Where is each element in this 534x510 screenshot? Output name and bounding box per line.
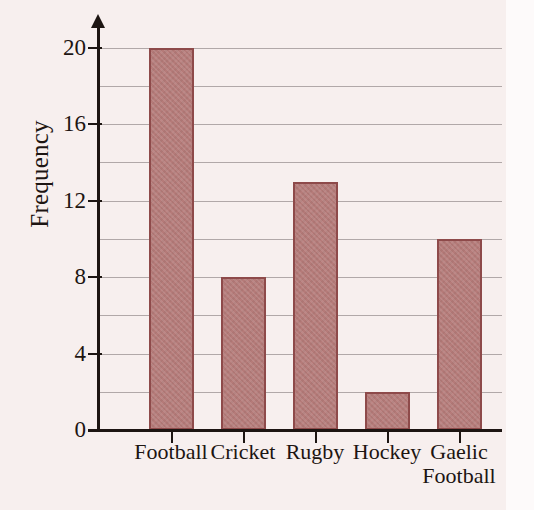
- paper-margin: [506, 0, 534, 510]
- y-axis-tick: [88, 429, 102, 431]
- y-axis-title: Frequency: [26, 79, 54, 269]
- y-axis-tick: [88, 47, 102, 49]
- y-axis-arrow-icon: [91, 14, 105, 28]
- bar: [221, 277, 266, 430]
- y-axis-tick-label: 20: [44, 36, 86, 59]
- bar: [437, 239, 482, 430]
- y-axis-tick: [88, 353, 102, 355]
- bar-chart: 048121620 FootballCricketRugbyHockeyGael…: [0, 0, 534, 510]
- x-axis-line: [88, 429, 502, 432]
- y-axis-tick: [88, 123, 102, 125]
- y-axis-tick: [88, 276, 102, 278]
- y-axis-tick: [88, 200, 102, 202]
- x-axis-tick-label: Gaelic Football: [417, 440, 501, 488]
- bar: [293, 182, 338, 430]
- bar: [149, 48, 194, 430]
- y-axis-tick-label: 4: [44, 342, 86, 365]
- bar: [365, 392, 410, 430]
- plot-area: [100, 40, 502, 430]
- y-axis-line: [97, 22, 100, 432]
- y-axis-tick-label: 0: [44, 418, 86, 441]
